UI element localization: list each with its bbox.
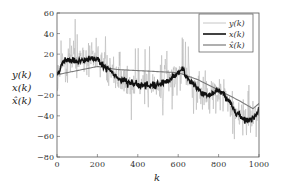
x-tick-label: 800 (211, 160, 226, 169)
legend-label-xhat: x̂(k) (229, 41, 245, 50)
y-tick-label: −80 (37, 153, 54, 162)
y-tick-label: −40 (37, 112, 54, 121)
x-tick-label: 0 (54, 160, 59, 169)
x-tick-label: 200 (90, 160, 105, 169)
x-tick-label: 400 (130, 160, 145, 169)
series-xhat-estimate (57, 66, 259, 108)
x-tick-label: 1000 (249, 160, 269, 169)
y-tick-label: 40 (44, 30, 54, 39)
y-tick-label: 0 (49, 71, 54, 80)
x-tick-label: 600 (171, 160, 186, 169)
y-tick-label: 20 (44, 50, 54, 59)
x-axis-label: k (154, 172, 160, 183)
y-tick-label: −60 (37, 132, 54, 141)
y-tick-label: 60 (44, 9, 54, 18)
y-axis-labels: y(k) x(k) x̂(k) (11, 69, 32, 106)
legend-label-y: y(k) (228, 19, 245, 28)
y-tick-label: −20 (37, 91, 54, 100)
legend: y(k) x(k) x̂(k) (199, 14, 253, 52)
y-axis-label-x: x(k) (12, 82, 32, 93)
legend-label-x: x(k) (229, 30, 245, 39)
y-axis-label-xhat: x̂(k) (12, 95, 32, 106)
y-ticks: −80−60−40−200204060 (37, 9, 60, 162)
chart: y(k) x(k) x̂(k) −80−60−40−200204060 0200… (0, 0, 281, 195)
y-axis-label-y: y(k) (11, 69, 32, 80)
legend-box (199, 14, 253, 52)
x-ticks: 02004006008001000 (54, 154, 269, 169)
